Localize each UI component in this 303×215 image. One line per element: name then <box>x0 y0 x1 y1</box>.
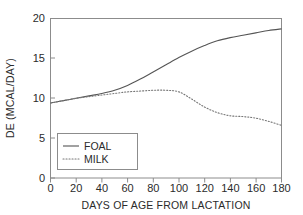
y-tick-label-5: 5 <box>39 132 45 144</box>
x-axis-title: DAYS OF AGE FROM LACTATION <box>81 199 250 211</box>
x-tick-label-120: 120 <box>196 182 214 194</box>
chart-canvas: 0 5 10 15 20 DE (MCAL/DAY) 0 20 40 <box>0 0 303 215</box>
x-tick-label-140: 140 <box>221 182 239 194</box>
x-tick-label-100: 100 <box>170 182 188 194</box>
legend-label-milk: MILK <box>84 153 109 165</box>
x-tick-label-40: 40 <box>96 182 108 194</box>
legend: FOAL MILK <box>58 134 138 170</box>
x-tick-label-180: 180 <box>272 182 290 194</box>
y-tick-label-15: 15 <box>33 52 45 64</box>
x-tick-label-160: 160 <box>247 182 265 194</box>
x-tick-label-0: 0 <box>47 182 53 194</box>
x-tick-label-60: 60 <box>121 182 133 194</box>
x-tick-label-80: 80 <box>147 182 159 194</box>
y-axis-title: DE (MCAL/DAY) <box>4 58 16 138</box>
y-tick-label-0: 0 <box>39 172 45 184</box>
x-tick-label-20: 20 <box>70 182 82 194</box>
y-tick-label-10: 10 <box>33 92 45 104</box>
legend-label-foal: FOAL <box>84 140 112 152</box>
y-tick-label-20: 20 <box>33 12 45 24</box>
chart-figure: 0 5 10 15 20 DE (MCAL/DAY) 0 20 40 <box>0 0 303 215</box>
